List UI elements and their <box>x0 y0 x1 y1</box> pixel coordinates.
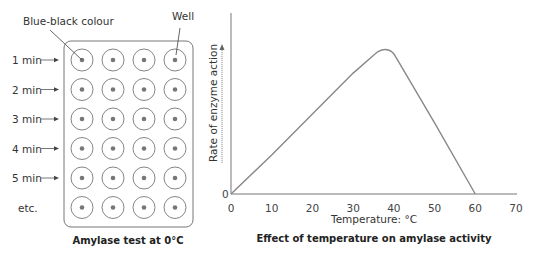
row-label: 1 min <box>12 54 42 66</box>
blue-black-dot <box>142 58 147 63</box>
blue-black-label: Blue-black colour <box>23 15 114 27</box>
row-label: 4 min <box>12 143 42 155</box>
blue-black-dot <box>142 87 147 92</box>
row-label: 3 min <box>12 113 42 125</box>
blue-black-dot <box>173 117 178 122</box>
blue-black-dot <box>142 205 147 210</box>
blue-black-dot <box>142 146 147 151</box>
blue-black-dot <box>111 58 116 63</box>
row-arrow-head-icon <box>54 117 59 121</box>
diagram-canvas: Blue-black colour Well 1 min2 min3 min4 … <box>0 0 534 257</box>
plate-caption: Amylase test at 0°C <box>72 235 183 246</box>
x-tick-label: 60 <box>469 202 482 214</box>
blue-black-dot <box>142 117 147 122</box>
blue-black-dot <box>173 205 178 210</box>
blue-black-dot <box>173 58 178 63</box>
blue-black-dot <box>111 176 116 181</box>
x-axis-label: Temperature: °C <box>330 213 417 225</box>
graph-caption: Effect of temperature on amylase activit… <box>257 233 492 244</box>
x-tick-label: 10 <box>265 202 278 214</box>
x-tick-label: 0 <box>228 202 235 214</box>
x-tick-label: 50 <box>428 202 441 214</box>
blue-black-dot <box>80 87 85 92</box>
row-label: 2 min <box>12 84 42 96</box>
blue-black-dot <box>111 117 116 122</box>
y-axis-label: Rate of enzyme action <box>207 44 219 162</box>
x-tick-label: 20 <box>306 202 319 214</box>
x-tick-label: 70 <box>509 202 522 214</box>
line-chart: Rate of enzyme action 0 010203040506070 … <box>207 13 523 244</box>
row-label: 5 min <box>12 172 42 184</box>
blue-black-dot <box>111 205 116 210</box>
row-arrow-head-icon <box>54 176 59 180</box>
row-label: etc. <box>18 202 38 214</box>
blue-black-dot <box>142 176 147 181</box>
blue-black-dot <box>173 146 178 151</box>
row-arrow-head-icon <box>54 58 59 62</box>
blue-black-dot <box>173 176 178 181</box>
y-arrow-head-icon <box>220 44 225 50</box>
well-plate <box>64 41 193 227</box>
row-arrow-head-icon <box>54 87 59 91</box>
blue-black-dot <box>111 87 116 92</box>
blue-black-dot <box>80 117 85 122</box>
blue-black-dot <box>173 87 178 92</box>
blue-black-dot <box>80 176 85 181</box>
well-label: Well <box>172 10 194 22</box>
rate-curve <box>231 50 475 194</box>
row-arrow-head-icon <box>54 146 59 150</box>
blue-black-dot <box>80 146 85 151</box>
y-origin-label: 0 <box>222 188 229 200</box>
blue-black-dot <box>80 205 85 210</box>
blue-black-dot <box>111 146 116 151</box>
